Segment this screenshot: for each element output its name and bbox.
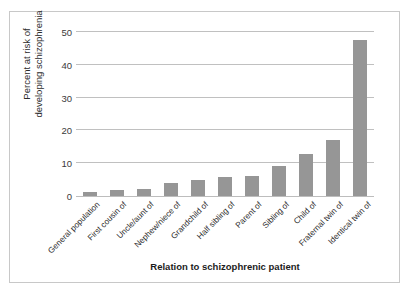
y-tick-label: 40 (32, 60, 72, 71)
y-axis-ticks: 01020304050 (30, 32, 72, 196)
figure: Percent at risk of developing schizophre… (0, 0, 411, 297)
bar-slot (211, 32, 238, 196)
bar[interactable] (353, 40, 367, 196)
y-tick-label: 10 (32, 158, 72, 169)
bar-slot (130, 32, 157, 196)
plot-area (76, 32, 374, 196)
x-tick-label: Parent of (234, 200, 264, 230)
bar[interactable] (191, 180, 205, 196)
x-axis-line (76, 196, 374, 197)
bar-slot (76, 32, 103, 196)
bar-slot (239, 32, 266, 196)
x-tick-slot: Identical twin of (347, 198, 374, 256)
bar-series (76, 32, 374, 196)
x-tick-slot: Half sibling of (211, 198, 238, 256)
y-tick-label: 50 (32, 27, 72, 38)
x-axis-title: Relation to schizophrenic patient (76, 261, 374, 272)
bar[interactable] (326, 140, 340, 196)
bar-slot (293, 32, 320, 196)
y-tick-label: 0 (32, 191, 72, 202)
x-tick-label: Child of (292, 200, 318, 226)
bar[interactable] (164, 183, 178, 196)
bar-slot (347, 32, 374, 196)
x-tick-slot: Sibling of (266, 198, 293, 256)
bar-slot (184, 32, 211, 196)
bar-slot (103, 32, 130, 196)
bar[interactable] (218, 177, 232, 196)
bar[interactable] (272, 166, 286, 196)
bar[interactable] (245, 176, 259, 196)
bar-slot (157, 32, 184, 196)
y-tick-label: 30 (32, 93, 72, 104)
bar-slot (320, 32, 347, 196)
x-tick-label: Sibling of (261, 200, 291, 230)
bar-slot (266, 32, 293, 196)
y-tick-label: 20 (32, 125, 72, 136)
x-axis-ticks: General populationFirst cousin ofUncle/a… (76, 198, 374, 256)
x-tick-slot: Parent of (239, 198, 266, 256)
bar[interactable] (299, 154, 313, 196)
